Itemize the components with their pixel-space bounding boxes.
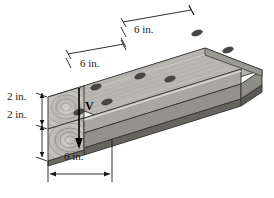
figure-canvas: 6 in. 6 in. 2 in. 2 in. 6 in. V	[0, 0, 274, 198]
label-width-dimension: 6 in.	[64, 151, 84, 162]
nail-head	[191, 29, 203, 37]
label-force-v: V	[85, 100, 94, 112]
label-height-lower: 2 in.	[7, 109, 27, 120]
nail-head	[222, 46, 234, 54]
label-top-right-dimension: 6 in.	[134, 24, 154, 35]
dimension-top-right	[121, 5, 194, 37]
dimension-heights	[36, 93, 47, 161]
label-height-upper: 2 in.	[7, 91, 27, 102]
label-top-left-dimension: 6 in.	[80, 58, 100, 69]
